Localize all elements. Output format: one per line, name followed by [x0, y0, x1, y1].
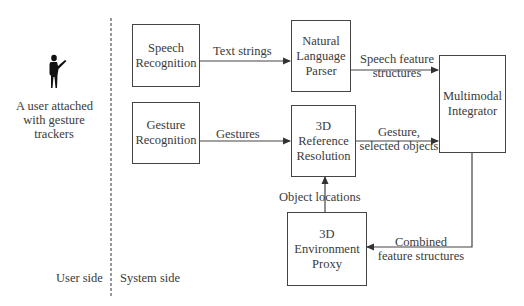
user-side-label: User side	[56, 271, 103, 285]
person-pointing-icon	[50, 55, 67, 88]
edge-label-gestures: Gestures	[216, 127, 260, 141]
nl-parser-node: NaturalLanguageParser	[291, 20, 351, 92]
node-label: Proxy	[294, 257, 359, 272]
arrow-combined-features	[367, 152, 472, 247]
node-label: Recognition	[135, 56, 196, 71]
multimodal-integrator-node: MultimodalIntegrator	[439, 55, 506, 153]
edge-label-gesture-selected: Gesture, selected objects	[357, 125, 441, 153]
system-side-label: System side	[120, 271, 180, 285]
node-label: Recognition	[135, 133, 196, 148]
edge-label-line: Speech feature	[355, 52, 439, 66]
edge-label-line: structures	[355, 66, 439, 80]
node-label: Natural	[296, 34, 345, 49]
reference-resolution-node: 3DReferenceResolution	[291, 105, 356, 177]
environment-proxy-node: 3DEnvironmentProxy	[287, 212, 367, 286]
node-label: 3D	[296, 119, 350, 134]
node-label: Resolution	[296, 149, 350, 164]
node-label: Multimodal	[443, 89, 502, 104]
edge-label-object-locations: Object locations	[279, 190, 361, 204]
node-label: 3D	[294, 227, 359, 242]
speech-recognition-node: SpeechRecognition	[132, 24, 200, 87]
node-label: Speech	[135, 41, 196, 56]
edge-label-line: feature structures	[371, 249, 471, 263]
edge-label-line: Gesture,	[357, 125, 441, 139]
user-caption-line: with gesture	[16, 113, 92, 127]
edge-label-speech-features: Speech feature structures	[355, 52, 439, 80]
edge-label-line: selected objects	[357, 139, 441, 153]
edge-label-line: Combined	[371, 235, 471, 249]
gesture-recognition-node: GestureRecognition	[132, 102, 200, 164]
node-label: Environment	[294, 242, 359, 257]
edge-label-text-strings: Text strings	[213, 44, 272, 58]
edge-label-combined-features: Combined feature structures	[371, 235, 471, 263]
node-label: Gesture	[135, 118, 196, 133]
node-label: Integrator	[443, 104, 502, 119]
node-label: Reference	[296, 134, 350, 149]
user-caption-line: trackers	[16, 127, 92, 141]
user-caption-line: A user attached	[16, 99, 92, 113]
node-label: Language	[296, 49, 345, 64]
node-label: Parser	[296, 64, 345, 79]
user-caption: A user attached with gesture trackers	[16, 99, 92, 141]
